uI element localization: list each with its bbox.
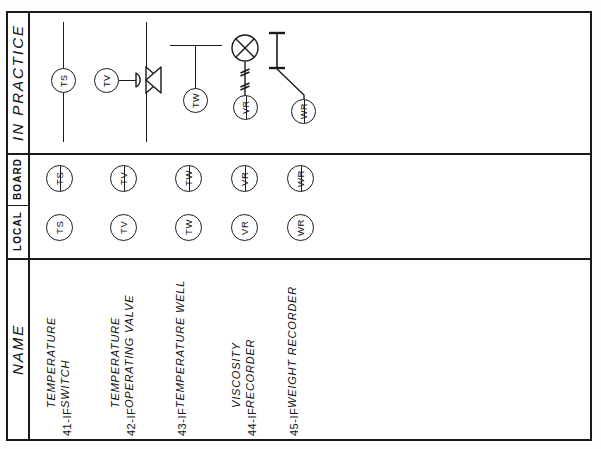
name-entry-44-if: 44-IF VISCOSITY RECORDER bbox=[221, 264, 258, 436]
name-entry-41-if: 41-IF TEMPERATURE SWITCH bbox=[36, 264, 73, 436]
name-entry-text: TEMPERATURE OPERATING VALVE bbox=[109, 295, 137, 408]
board-bubble-ts: TS bbox=[46, 165, 73, 192]
local-bubble-wr: WR bbox=[287, 214, 314, 241]
name-entry-number: 45-IF bbox=[288, 408, 300, 436]
local-bubble-ts: TS bbox=[46, 214, 73, 241]
name-entry-text: WEIGHT RECORDER bbox=[286, 286, 300, 408]
name-entry-text: TEMPERATURE SWITCH bbox=[45, 317, 73, 408]
board-bubble-tv: TV bbox=[110, 165, 137, 192]
name-entry-number: 44-IF bbox=[246, 408, 258, 436]
thermowell-stem bbox=[195, 45, 196, 92]
board-bubble-wr: WR bbox=[287, 165, 314, 192]
band-header-in-practice: IN PRACTICE bbox=[6, 11, 28, 153]
capillary-signal-line bbox=[238, 62, 254, 96]
local-bubble-tw: TW bbox=[175, 214, 202, 241]
name-entry-45-if: 45-IF WEIGHT RECORDER bbox=[277, 264, 300, 436]
instrument-bubble-vr-board: VR bbox=[233, 95, 258, 120]
band-header-board: BOARD bbox=[6, 153, 28, 205]
instrument-bubble-ts-field: TS bbox=[51, 68, 76, 93]
local-bubble-tv: TV bbox=[110, 214, 137, 241]
instrument-bubble-wr-board: WR bbox=[291, 99, 316, 124]
header-column-rule bbox=[28, 11, 30, 441]
instrument-symbol-legend-sheet: IN PRACTICE BOARD LOCAL NAME TS TV TW bbox=[0, 0, 601, 449]
name-entry-43-if: 43-IF TEMPERATURE WELL bbox=[165, 264, 188, 436]
name-entry-42-if: 42-IF TEMPERATURE OPERATING VALVE bbox=[100, 264, 137, 436]
band-header-name: NAME bbox=[6, 258, 28, 441]
name-entry-number: 43-IF bbox=[176, 408, 188, 436]
band-header-local: LOCAL bbox=[6, 205, 28, 258]
globe-valve-body-icon bbox=[130, 60, 170, 102]
name-entry-text: VISCOSITY RECORDER bbox=[230, 338, 258, 407]
name-entry-text: TEMPERATURE WELL bbox=[174, 280, 188, 408]
board-bubble-tw: TW bbox=[175, 165, 202, 192]
name-entry-number: 42-IF bbox=[125, 408, 137, 436]
name-entry-number: 41-IF bbox=[61, 408, 73, 436]
instrument-bubble-tw-field: TW bbox=[183, 88, 208, 113]
viscometer-element-icon bbox=[229, 32, 261, 64]
band-divider-local-name bbox=[6, 258, 592, 260]
band-divider-practice-local bbox=[6, 153, 592, 155]
board-bubble-vr: VR bbox=[231, 165, 258, 192]
local-bubble-vr: VR bbox=[231, 214, 258, 241]
instrument-bubble-tv-field: TV bbox=[94, 68, 119, 93]
